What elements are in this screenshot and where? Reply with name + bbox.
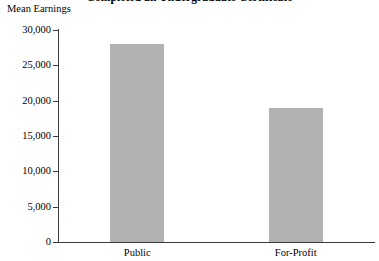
y-axis-tick-label-text: 0 (1, 237, 51, 247)
y-axis-tick-label-text: 20,000 (1, 96, 51, 106)
y-axis-tick-label-text: 25,000 (1, 60, 51, 70)
y-axis-tick (53, 171, 58, 172)
y-axis-tick-label: 0 (0, 237, 51, 247)
x-axis-line (58, 242, 375, 243)
y-axis-tick-label: 10,000 (0, 166, 51, 176)
y-axis-tick (53, 101, 58, 102)
x-axis-category-label: For-Profit (236, 247, 356, 259)
y-axis-tick (53, 207, 58, 208)
y-axis-tick-label-text: 30,000 (1, 25, 51, 35)
y-axis-tick-label: 20,000 (0, 96, 51, 106)
y-axis-tick (53, 242, 58, 243)
bar (269, 108, 323, 242)
plot-area: 05,00010,00015,00020,00025,00030,000 Pub… (0, 0, 379, 261)
y-axis-tick-label-text: 10,000 (1, 166, 51, 176)
bar (110, 44, 164, 242)
y-axis-tick-label: 15,000 (0, 131, 51, 141)
y-axis-tick-label-text: 5,000 (1, 202, 51, 212)
y-axis-tick (53, 30, 58, 31)
y-axis-tick-label: 30,000 (0, 25, 51, 35)
y-axis-tick-label: 5,000 (0, 202, 51, 212)
y-axis-tick (53, 136, 58, 137)
y-axis-tick-label-text: 15,000 (1, 131, 51, 141)
bar-chart-figure: Completed an Undergraduate Certificate M… (0, 0, 379, 261)
y-axis-tick-label: 25,000 (0, 60, 51, 70)
y-axis-line (58, 29, 59, 243)
y-axis-tick (53, 65, 58, 66)
x-axis-category-label: Public (77, 247, 197, 259)
